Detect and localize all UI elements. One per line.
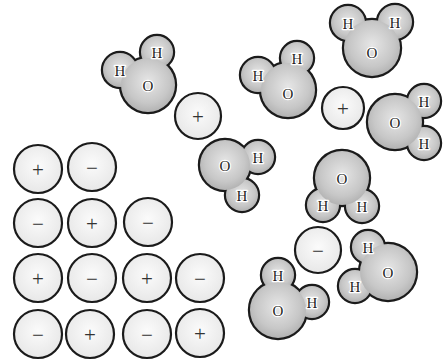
lattice-positive-ion: + xyxy=(176,309,224,357)
hydrogen-label: H xyxy=(318,198,329,214)
hydrogen-label: H xyxy=(390,15,401,31)
lattice-positive-ion: + xyxy=(66,310,114,358)
lattice-negative-ion: − xyxy=(124,198,172,246)
lattice-negative-ion: − xyxy=(123,310,171,358)
hydrogen-label: H xyxy=(419,94,430,110)
dissolution-diagram-canvas: +−−+−+−+−−+−+HHOHHOHHOHHOHHOHHOHHOHHO++− xyxy=(0,0,445,364)
ion-sign-label: + xyxy=(141,267,153,291)
oxygen-label: O xyxy=(273,303,284,319)
lattice-negative-ion: − xyxy=(14,310,62,358)
hydrogen-label: H xyxy=(253,150,264,166)
ion-sign-label: + xyxy=(32,158,44,182)
oxygen-label: O xyxy=(220,158,231,174)
oxygen-label: O xyxy=(383,265,394,281)
ion-sign-label: − xyxy=(142,211,154,235)
ion-sign-label: + xyxy=(32,267,44,291)
free-positive-ion: + xyxy=(175,93,221,139)
lattice-positive-ion: + xyxy=(68,199,116,247)
ion-sign-label: − xyxy=(312,239,324,263)
ion-sign-label: + xyxy=(192,105,204,129)
lattice-negative-ion: − xyxy=(68,254,116,302)
hydrogen-label: H xyxy=(307,295,318,311)
hydrogen-label: H xyxy=(343,16,354,32)
oxygen-label: O xyxy=(390,115,401,131)
dissolution-diagram: +−−+−+−+−−+−+HHOHHOHHOHHOHHOHHOHHOHHO++− xyxy=(0,0,445,364)
oxygen-label: O xyxy=(337,171,348,187)
lattice-negative-ion: − xyxy=(176,254,224,302)
ion-sign-label: + xyxy=(84,323,96,347)
free-negative-ion: − xyxy=(295,227,341,273)
oxygen-label: O xyxy=(367,45,378,61)
hydrogen-label: H xyxy=(253,68,264,84)
ion-sign-label: + xyxy=(86,212,98,236)
hydrogen-label: H xyxy=(237,188,248,204)
oxygen-label: O xyxy=(283,86,294,102)
lattice-positive-ion: + xyxy=(14,254,62,302)
ion-sign-label: − xyxy=(141,323,153,347)
hydrogen-label: H xyxy=(292,51,303,67)
lattice-positive-ion: + xyxy=(123,254,171,302)
hydrogen-label: H xyxy=(115,63,126,79)
ion-sign-label: + xyxy=(194,322,206,346)
lattice-negative-ion: − xyxy=(14,199,62,247)
free-positive-ion: + xyxy=(322,87,364,129)
oxygen-label: O xyxy=(143,78,154,94)
ion-sign-label: − xyxy=(32,323,44,347)
hydrogen-label: H xyxy=(350,279,361,295)
hydrogen-label: H xyxy=(273,268,284,284)
ion-sign-label: − xyxy=(86,156,98,180)
ion-sign-label: + xyxy=(337,97,349,121)
ion-sign-label: − xyxy=(86,267,98,291)
hydrogen-label: H xyxy=(363,240,374,256)
ion-sign-label: − xyxy=(194,267,206,291)
lattice-negative-ion: − xyxy=(68,143,116,191)
lattice-positive-ion: + xyxy=(14,145,62,193)
hydrogen-label: H xyxy=(152,45,163,61)
hydrogen-label: H xyxy=(357,199,368,215)
hydrogen-label: H xyxy=(419,136,430,152)
ion-sign-label: − xyxy=(32,212,44,236)
